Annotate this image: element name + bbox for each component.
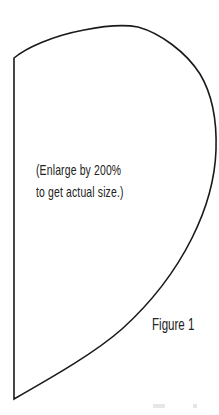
pattern-piece-outline <box>14 26 216 399</box>
enlarge-instruction-note: (Enlarge by 200% to get actual size.) <box>36 159 115 203</box>
figure-caption: Figure 1 <box>152 315 194 335</box>
note-line-2: to get actual size.) <box>36 181 115 203</box>
pattern-piece-diagram <box>0 0 219 415</box>
faint-scan-mark <box>153 404 165 408</box>
faint-scan-mark <box>193 404 197 408</box>
note-line-1: (Enlarge by 200% <box>36 159 115 181</box>
